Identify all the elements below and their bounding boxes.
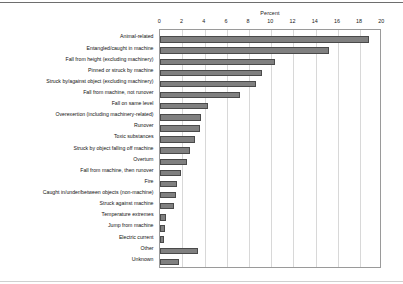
category-label: Fall from height (excluding machinery): [0, 56, 156, 62]
x-tick-label-12: 12: [290, 18, 296, 24]
bar-row: [160, 79, 380, 90]
bar-row: [160, 45, 380, 56]
bar: [160, 236, 163, 242]
category-label: Jump from machine: [0, 222, 156, 228]
category-label: Entangled/caught in machine: [0, 45, 156, 51]
category-axis-labels: Animal-relatedEntangled/caught in machin…: [0, 29, 156, 268]
bar-row: [160, 179, 380, 190]
bar-row: [160, 157, 380, 168]
bar: [160, 125, 200, 131]
bar-row: [160, 112, 380, 123]
bar-row: [160, 201, 380, 212]
x-axis-tick-labels: 02468101214161820: [0, 18, 403, 27]
category-label: Fall from machine, not runover: [0, 89, 156, 95]
bar: [160, 114, 201, 120]
bar-row: [160, 134, 380, 145]
bar-row: [160, 145, 380, 156]
x-tick-label-8: 8: [247, 18, 250, 24]
category-label: Pinned or struck by machine: [0, 67, 156, 73]
bar-row: [160, 245, 380, 256]
x-tick-label-16: 16: [334, 18, 340, 24]
category-label: Animal-related: [0, 33, 156, 39]
bar: [160, 81, 255, 87]
category-label: Runover: [0, 122, 156, 128]
category-label: Overexertion (including machinery-relate…: [0, 111, 156, 117]
bar: [160, 59, 274, 65]
bar-row: [160, 101, 380, 112]
x-tick-label-10: 10: [267, 18, 273, 24]
bottom-divider: [0, 281, 403, 282]
bar-row: [160, 257, 380, 268]
x-tick-label-2: 2: [180, 18, 183, 24]
bar: [160, 36, 369, 42]
x-tick-label-6: 6: [224, 18, 227, 24]
bar: [160, 259, 179, 265]
bar-row: [160, 34, 380, 45]
bar: [160, 214, 166, 220]
bar-row: [160, 68, 380, 79]
bar: [160, 181, 177, 187]
bar: [160, 147, 190, 153]
bar: [160, 225, 164, 231]
bar: [160, 192, 176, 198]
category-label: Fire: [0, 178, 156, 184]
bar-row: [160, 168, 380, 179]
x-axis-title: Percent: [159, 10, 381, 16]
category-label: Struck by object falling off machine: [0, 145, 156, 151]
category-label: Fall from machine, then runover: [0, 167, 156, 173]
x-tick-label-4: 4: [202, 18, 205, 24]
bar: [160, 248, 198, 254]
x-tick-label-20: 20: [378, 18, 384, 24]
x-tick-label-14: 14: [312, 18, 318, 24]
category-label: Struck against machine: [0, 200, 156, 206]
category-label: Toxic substances: [0, 133, 156, 139]
bar: [160, 47, 329, 53]
category-label: Temperature extremes: [0, 211, 156, 217]
category-label: Overturn: [0, 156, 156, 162]
bars-container: [160, 30, 380, 267]
category-label: Unknown: [0, 256, 156, 262]
bar-row: [160, 56, 380, 67]
bar: [160, 92, 240, 98]
bar-row: [160, 223, 380, 234]
bar-row: [160, 234, 380, 245]
category-label: Struck by/against object (excluding mach…: [0, 78, 156, 84]
plot-area: [159, 29, 381, 268]
bar-row: [160, 90, 380, 101]
category-label: Electric current: [0, 234, 156, 240]
bar-row: [160, 190, 380, 201]
x-tick-label-0: 0: [158, 18, 161, 24]
top-divider: [0, 2, 403, 3]
bar-chart: Percent 02468101214161820 Animal-related…: [0, 0, 403, 284]
bar: [160, 103, 208, 109]
category-label: Other: [0, 245, 156, 251]
bar: [160, 170, 181, 176]
category-label: Fall on same level: [0, 100, 156, 106]
bar: [160, 136, 194, 142]
bar-row: [160, 123, 380, 134]
x-tick-label-18: 18: [356, 18, 362, 24]
category-label: Caught in/under/between objects (non-mac…: [0, 189, 156, 195]
bar-row: [160, 212, 380, 223]
bar: [160, 159, 187, 165]
bar: [160, 203, 173, 209]
bar: [160, 70, 262, 76]
